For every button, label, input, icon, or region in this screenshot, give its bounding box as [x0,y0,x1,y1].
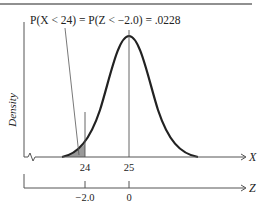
x-tick-25: 25 [124,162,135,173]
density-curve [62,36,198,157]
z-tick-0: 0 [126,192,131,203]
x-axis [24,153,245,161]
pointer-line [65,28,79,155]
z-axis-label: Z [249,181,256,195]
probability-annotation: P(X < 24) = P(Z < −2.0) = .0228 [30,14,181,27]
x-axis-label: X [248,150,257,164]
x-tick-24: 24 [80,162,91,173]
y-axis-label: Density [6,93,18,128]
z-tick-neg2: −2.0 [75,192,94,203]
normal-distribution-figure: Density P(X < 24) = P(Z < −2.0) = .0228 … [0,0,265,210]
